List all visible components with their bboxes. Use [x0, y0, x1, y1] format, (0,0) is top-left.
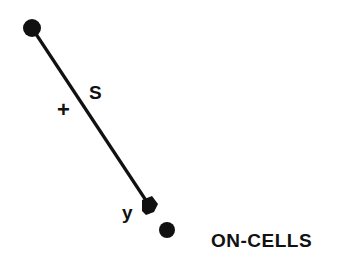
- y-label: y: [122, 203, 133, 222]
- diagram-canvas: S + y ON-CELLS: [0, 0, 347, 261]
- on-cell-dot: [159, 222, 175, 238]
- diagram-graphics: [0, 0, 347, 261]
- connection-line: [32, 28, 147, 202]
- plus-sign-label: +: [57, 99, 70, 121]
- on-cells-label: ON-CELLS: [211, 231, 312, 250]
- s-label: S: [89, 83, 102, 102]
